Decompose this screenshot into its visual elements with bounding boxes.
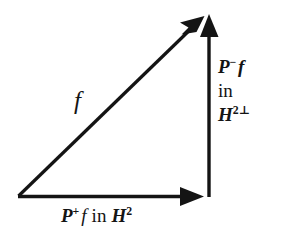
vertical-label-line-1: P−f	[218, 57, 250, 76]
base-label-function: f	[81, 205, 86, 226]
base-vector-arrow	[18, 187, 204, 206]
vertical-label-space-superscript: 2⊥	[233, 104, 250, 117]
base-label-space-superscript: 2	[126, 205, 132, 218]
vertical-label-function: f	[238, 56, 244, 77]
base-label: P+finH2	[61, 206, 132, 225]
base-label-operator-superscript: +	[73, 205, 80, 218]
vector-decomposition-figure: f P+finH2 P−f in H2⊥	[0, 0, 290, 241]
hypotenuse-label: f	[74, 88, 81, 113]
base-label-space: H	[111, 205, 126, 226]
hypotenuse-label-f: f	[74, 87, 81, 114]
vertical-label-line-3: H2⊥	[218, 105, 250, 124]
base-vector-arrowhead	[180, 187, 204, 206]
hypotenuse-vector-arrow	[19, 16, 205, 196]
base-label-operator: P	[61, 205, 73, 226]
vertical-label-operator-superscript: −	[230, 56, 236, 69]
vertical-label-operator: P	[218, 56, 230, 77]
base-label-preposition: in	[92, 205, 107, 226]
vertical-label-space: H	[218, 104, 233, 125]
vertical-label-line-2: in	[218, 81, 250, 100]
hypotenuse-vector-shaft	[19, 24, 197, 196]
hypotenuse-vector-arrowhead	[180, 16, 205, 35]
vertical-label: P−f in H2⊥	[218, 57, 250, 124]
vertical-vector-arrow	[200, 14, 219, 197]
